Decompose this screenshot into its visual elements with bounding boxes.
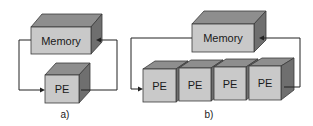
panel-b: Memory PE PE PE PE xyxy=(131,11,300,120)
diagram-canvas: Memory PE a) Memory PE xyxy=(0,0,313,126)
pe-b1-label: PE xyxy=(152,80,167,92)
pe-b3-label: PE xyxy=(223,78,238,90)
pe-block-a: PE xyxy=(45,63,90,103)
pe-b4-label: PE xyxy=(258,77,273,89)
pe-b2-label: PE xyxy=(188,79,203,91)
arrowhead-into-pe-a xyxy=(40,88,45,93)
caption-a: a) xyxy=(61,109,70,120)
arrowhead-into-pe-b xyxy=(138,87,143,92)
memory-block-a: Memory xyxy=(31,14,102,54)
memory-block-b: Memory xyxy=(192,11,266,52)
pe-a-label: PE xyxy=(55,83,70,95)
pe-block-b-4: PE xyxy=(249,58,294,100)
panel-a: Memory PE a) xyxy=(19,14,117,120)
caption-b: b) xyxy=(205,109,214,120)
memory-a-top-face xyxy=(31,14,102,27)
memory-b-label: Memory xyxy=(203,32,243,44)
memory-b-top-face xyxy=(192,11,266,24)
memory-a-label: Memory xyxy=(41,35,81,47)
